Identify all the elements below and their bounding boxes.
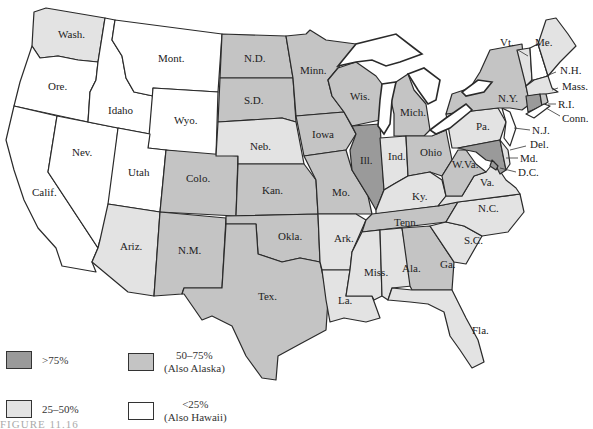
label-nd: N.D. (244, 52, 266, 64)
figure-caption: FIGURE 11.16 (0, 418, 79, 429)
legend-item-25-50: 25–50% (6, 400, 79, 418)
legend-label-gt75: >75% (42, 354, 68, 367)
label-pa: Pa. (476, 120, 490, 132)
label-sd: S.D. (244, 94, 264, 106)
state-fla (388, 288, 484, 368)
label-wash: Wash. (58, 28, 85, 40)
label-ill: Ill. (360, 154, 373, 166)
legend-label-25-50: 25–50% (42, 403, 79, 416)
label-md: Md. (520, 152, 538, 164)
label-wyo: Wyo. (174, 114, 198, 126)
label-ga: Ga. (440, 258, 456, 270)
label-nc: N.C. (478, 202, 499, 214)
lake-superior (338, 34, 422, 66)
label-dc: D.C. (518, 166, 539, 178)
label-nh: N.H. (560, 64, 582, 76)
label-ore: Ore. (48, 80, 67, 92)
legend-item-lt25: <25% (Also Hawaii) (128, 398, 227, 424)
us-choropleth-map: Wash. Ore. Calif. Nev. Idaho Mont. Wyo. … (0, 0, 593, 429)
label-neb: Neb. (250, 140, 271, 152)
legend-item-50-75: 50–75% (Also Alaska) (128, 349, 225, 375)
label-conn: Conn. (562, 112, 589, 124)
label-ri: R.I. (558, 98, 575, 110)
label-ala: Ala. (402, 262, 421, 274)
label-ariz: Ariz. (120, 240, 143, 252)
label-mich: Mich. (400, 106, 426, 118)
label-ny: N.Y. (498, 92, 518, 104)
label-ark: Ark. (334, 232, 354, 244)
label-mass: Mass. (562, 80, 588, 92)
label-nev: Nev. (72, 146, 93, 158)
legend-item-gt75: >75% (6, 351, 68, 369)
label-nm: N.M. (178, 244, 201, 256)
label-idaho: Idaho (108, 104, 134, 116)
legend-label-lt25: <25% (Also Hawaii) (164, 398, 227, 424)
label-okla: Okla. (278, 230, 302, 242)
label-calif: Calif. (32, 186, 57, 198)
label-vt: Vt. (500, 36, 514, 48)
legend-label-50-75: 50–75% (Also Alaska) (164, 349, 225, 375)
label-ohio: Ohio (420, 146, 443, 158)
label-ind: Ind. (388, 150, 406, 162)
label-sc: S.C. (464, 234, 483, 246)
legend-swatch-lt25 (128, 402, 154, 420)
label-minn: Minn. (300, 64, 327, 76)
label-nj: N.J. (532, 124, 550, 136)
label-va: Va. (480, 176, 495, 188)
label-wis: Wis. (350, 90, 370, 102)
legend-swatch-50-75 (128, 353, 154, 371)
legend-swatch-25-50 (6, 400, 32, 418)
label-kan: Kan. (262, 184, 283, 196)
legend-swatch-gt75 (6, 351, 32, 369)
label-fla: Fla. (472, 324, 489, 336)
label-la: La. (338, 294, 353, 306)
label-colo: Colo. (186, 172, 210, 184)
label-tenn: Tenn. (394, 216, 419, 228)
label-wva: W.Va. (452, 158, 479, 170)
label-miss: Miss. (364, 266, 388, 278)
label-me: Me. (535, 36, 553, 48)
label-del: Del. (530, 138, 549, 150)
label-mo: Mo. (332, 186, 350, 198)
label-mont: Mont. (158, 52, 185, 64)
label-ky: Ky. (412, 190, 428, 202)
label-tex: Tex. (258, 290, 277, 302)
label-utah: Utah (128, 166, 150, 178)
label-iowa: Iowa (312, 128, 334, 140)
